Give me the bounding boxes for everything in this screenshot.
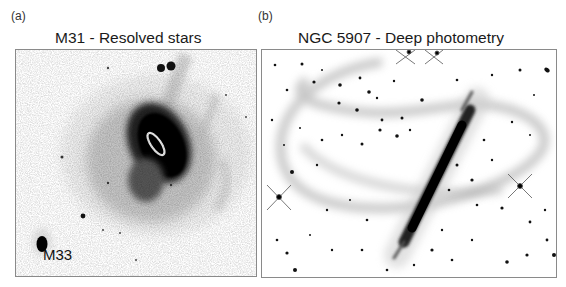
panel-b-letter: (b)	[258, 9, 273, 23]
panel-a-letter: (a)	[11, 9, 26, 23]
ngc5907-deep-image-graphic	[262, 50, 556, 277]
panel-a-image	[15, 49, 257, 277]
panel-a-title: M31 - Resolved stars	[55, 29, 201, 47]
panel-b-image	[261, 49, 557, 278]
panel-b-title: NGC 5907 - Deep photometry	[298, 29, 504, 47]
m33-label: M33	[43, 246, 72, 263]
m31-star-map-graphic	[16, 50, 256, 276]
